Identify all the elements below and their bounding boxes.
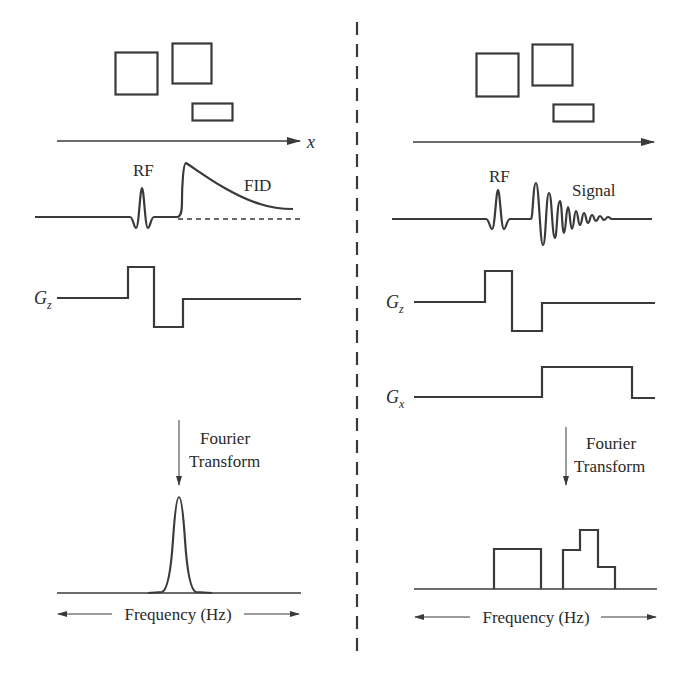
object-rectangle [193, 104, 233, 121]
gz-label: G [386, 292, 399, 312]
fourier-label-2: Transform [574, 457, 645, 476]
spectrum-block-1 [494, 549, 541, 589]
frequency-axis-label: Frequency (Hz) [482, 608, 589, 627]
x-axis-label: x [306, 132, 315, 152]
fourier-label-1: Fourier [200, 429, 250, 448]
fid-label: FID [244, 176, 271, 195]
object-group [116, 44, 233, 121]
object-square-1 [477, 54, 519, 97]
rf-label: RF [133, 161, 154, 180]
gz-subscript: z [398, 302, 404, 316]
gradient-gx-row: G x [386, 367, 655, 411]
fourier-label-2: Transform [189, 452, 260, 471]
gx-waveform [414, 367, 655, 398]
gradient-gz-row: G z [386, 271, 655, 331]
object-square-2 [533, 45, 573, 86]
gx-label: G [386, 387, 399, 407]
fourier-label-1: Fourier [586, 434, 636, 453]
object-square-1 [116, 53, 158, 95]
gz-label: G [34, 288, 47, 308]
left-panel: x RF FID G z Fourier Transform Frequency… [34, 44, 315, 625]
rf-pulse-waveform [35, 163, 293, 228]
gx-subscript: x [398, 397, 405, 411]
signal-label: Signal [572, 181, 616, 200]
gz-subscript: z [46, 298, 52, 312]
object-square-2 [173, 44, 212, 84]
spectrum-peak [148, 497, 212, 593]
right-panel: RF Signal G z G x Fourier Transform Freq… [386, 45, 657, 628]
object-group [477, 45, 594, 122]
gz-waveform [57, 267, 301, 327]
mri-frequency-encoding-diagram: x RF FID G z Fourier Transform Frequency… [0, 0, 696, 678]
gz-waveform [414, 271, 655, 331]
gradient-gz-row: G z [34, 267, 301, 327]
spectrum-block-2 [563, 530, 615, 589]
rf-label: RF [489, 167, 510, 186]
object-rectangle [554, 105, 594, 122]
frequency-axis-label: Frequency (Hz) [124, 605, 231, 624]
